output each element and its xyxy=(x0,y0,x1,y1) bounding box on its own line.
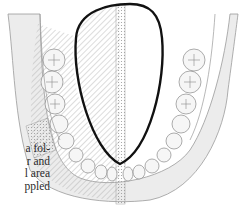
text-line: l area xyxy=(0,167,50,180)
body-text-fragment: a fol- r and l area ppled xyxy=(0,142,50,192)
text-line: r and xyxy=(0,155,50,168)
text-line: a fol- xyxy=(0,142,50,155)
text-line: ppled xyxy=(0,180,50,193)
